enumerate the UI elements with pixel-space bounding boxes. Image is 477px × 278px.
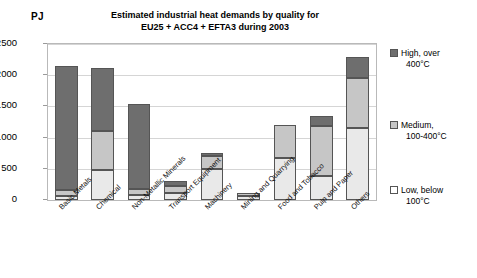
bar-segment-high[interactable]: [346, 57, 369, 78]
bar-segment-med[interactable]: [274, 125, 297, 157]
bar-slot: [230, 44, 266, 200]
bar-segment-high[interactable]: [201, 153, 224, 156]
stacked-bar[interactable]: [55, 44, 78, 200]
y-axis-tick-mark: [43, 137, 47, 138]
stacked-bar[interactable]: [237, 44, 260, 200]
legend-swatch-icon: [390, 49, 398, 57]
bar-slot: [121, 44, 157, 200]
legend-label-line-1: High, over: [401, 48, 440, 59]
y-axis-tick-label: 1500: [0, 100, 17, 110]
legend-item[interactable]: High, over400°C: [390, 48, 477, 69]
legend-label-line-1: Low, below: [401, 185, 443, 196]
bar-segment-med[interactable]: [346, 78, 369, 127]
chart-title-line-1: Estimated industrial heat demands by qua…: [95, 9, 335, 21]
chart-container: PJ Estimated industrial heat demands by …: [0, 0, 477, 278]
legend-label: High, over400°C: [401, 48, 440, 69]
legend-item[interactable]: Low, below100°C: [390, 185, 477, 206]
bar-segment-high[interactable]: [91, 68, 114, 131]
bar-series-group: [48, 44, 376, 200]
bar-segment-med[interactable]: [91, 131, 114, 170]
y-axis-tick-label: 500: [0, 163, 17, 173]
bar-segment-high[interactable]: [164, 181, 187, 186]
chart-title: Estimated industrial heat demands by qua…: [95, 9, 335, 33]
y-axis-tick-mark: [43, 74, 47, 75]
y-axis-tick-mark: [43, 199, 47, 200]
legend-label-line-1: Medium,: [401, 120, 447, 131]
stacked-bar[interactable]: [91, 44, 114, 200]
y-axis-tick-label: 2500: [0, 38, 17, 48]
legend-label-line-2: 100°C: [406, 196, 443, 207]
legend-item[interactable]: Medium,100-400°C: [390, 120, 477, 141]
bar-segment-high[interactable]: [55, 66, 78, 190]
bar-segment-high[interactable]: [310, 116, 333, 126]
y-axis-tick-mark: [43, 43, 47, 44]
y-axis-tick-label: 2000: [0, 69, 17, 79]
legend-label: Medium,100-400°C: [401, 120, 447, 141]
stacked-bar[interactable]: [128, 44, 151, 200]
y-axis-tick-mark: [43, 168, 47, 169]
y-axis-tick-mark: [43, 105, 47, 106]
legend-swatch-icon: [390, 186, 398, 194]
legend-swatch-icon: [390, 121, 398, 129]
legend-label-line-2: 100-400°C: [406, 131, 447, 142]
y-axis-tick-label: 1000: [0, 132, 17, 142]
legend-label-line-2: 400°C: [406, 59, 440, 70]
chart-title-line-2: EU25 + ACC4 + EFTA3 during 2003: [95, 21, 335, 33]
legend-label: Low, below100°C: [401, 185, 443, 206]
bar-segment-high[interactable]: [128, 104, 151, 190]
x-axis-labels: Basic MetalsChemicalNon-Metallic Mineral…: [0, 202, 477, 278]
bar-slot: [48, 44, 84, 200]
